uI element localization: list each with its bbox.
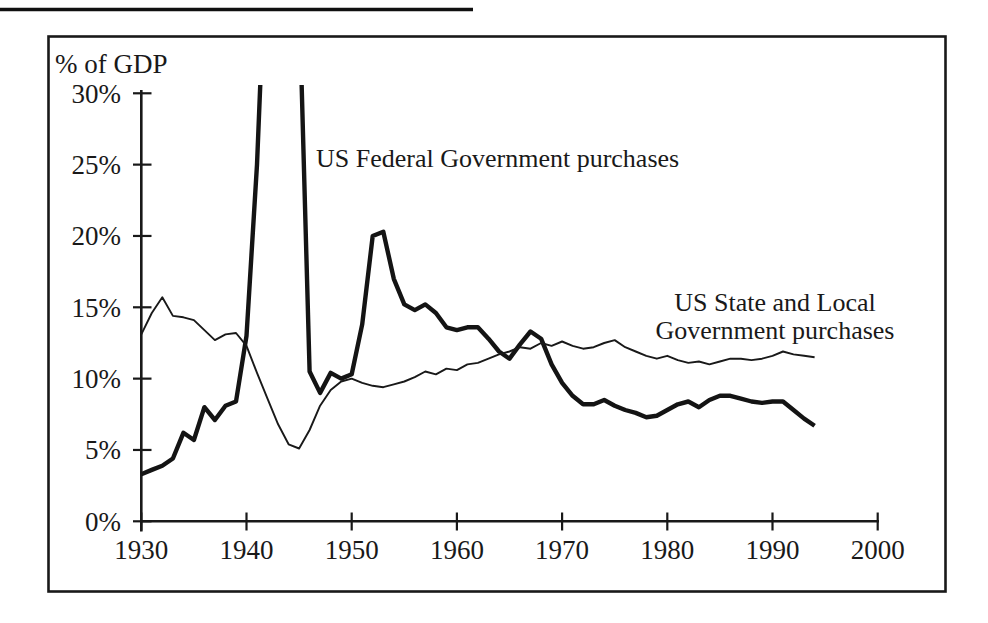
state-local-series-label-line2: Government purchases — [656, 316, 895, 345]
x-tick-label: 1990 — [746, 535, 800, 565]
y-tick-label: 5% — [85, 435, 121, 465]
y-tick-label: 0% — [85, 507, 121, 537]
x-tick-label: 1930 — [114, 535, 168, 565]
y-tick-label: 10% — [72, 364, 122, 394]
federal-series-label: US Federal Government purchases — [316, 144, 679, 173]
y-tick-label: 15% — [72, 293, 122, 323]
x-tick-label: 1950 — [325, 535, 379, 565]
y-axis-ticks: 0%5%10%15%20%25%30% — [72, 79, 152, 537]
x-tick-label: 2000 — [851, 535, 905, 565]
scanned-figure-page: % of GDP 0%5%10%15%20%25%30% 19301940195… — [0, 0, 988, 623]
state-local-series-label-line1: US State and Local — [674, 288, 875, 317]
x-tick-label: 1960 — [430, 535, 484, 565]
series-lines — [141, 0, 814, 474]
x-tick-label: 1940 — [220, 535, 274, 565]
y-axis-title: % of GDP — [55, 49, 168, 79]
x-tick-label: 1980 — [640, 535, 694, 565]
y-tick-label: 25% — [72, 150, 122, 180]
chart-canvas: % of GDP 0%5%10%15%20%25%30% 19301940195… — [0, 0, 988, 623]
y-tick-label: 30% — [72, 79, 122, 109]
x-tick-label: 1970 — [535, 535, 589, 565]
y-tick-label: 20% — [72, 221, 122, 251]
federal-series-line — [141, 0, 814, 474]
